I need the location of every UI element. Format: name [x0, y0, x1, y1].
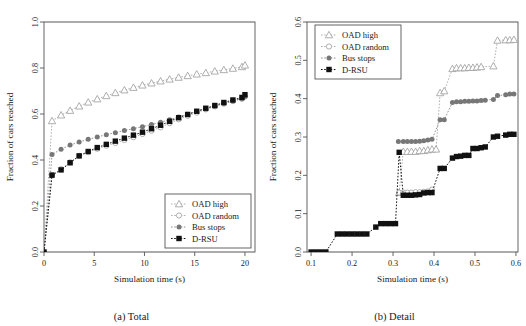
svg-text:1.0: 1.0 [31, 17, 40, 27]
svg-text:0.1: 0.1 [306, 259, 316, 268]
plot-detail: 0.10.20.30.40.50.60.00.10.20.30.40.50.6S… [263, 0, 526, 300]
svg-text:0.6: 0.6 [294, 17, 303, 27]
svg-text:0: 0 [42, 259, 46, 268]
svg-text:Fraction of cars reached: Fraction of cars reached [268, 92, 278, 181]
svg-text:0.2: 0.2 [31, 201, 40, 211]
svg-text:0.2: 0.2 [294, 170, 303, 180]
svg-text:0.8: 0.8 [31, 63, 40, 73]
panel-detail: 0.10.20.30.40.50.60.00.10.20.30.40.50.6S… [263, 0, 526, 326]
svg-text:0.4: 0.4 [429, 259, 439, 268]
svg-text:0.4: 0.4 [294, 94, 303, 104]
caption-detail: (b) Detail [263, 311, 526, 322]
svg-text:D-RSU: D-RSU [192, 234, 219, 244]
svg-text:D-RSU: D-RSU [342, 65, 369, 75]
svg-text:5: 5 [92, 259, 96, 268]
svg-text:Bus stops: Bus stops [342, 53, 376, 63]
svg-text:0.6: 0.6 [511, 259, 521, 268]
svg-text:0.6: 0.6 [31, 109, 40, 119]
svg-text:0.2: 0.2 [347, 259, 357, 268]
svg-text:0.0: 0.0 [294, 247, 303, 257]
svg-text:OAD high: OAD high [192, 199, 229, 209]
svg-text:OAD random: OAD random [192, 211, 239, 221]
svg-text:OAD random: OAD random [342, 42, 389, 52]
panel-total: 051015200.00.20.40.60.81.0Simulation tim… [0, 0, 263, 326]
svg-text:Fraction of cars reached: Fraction of cars reached [5, 92, 15, 181]
svg-text:0.4: 0.4 [31, 155, 40, 165]
svg-text:Bus stops: Bus stops [192, 222, 226, 232]
caption-total: (a) Total [0, 311, 263, 322]
svg-text:Simulation time (s): Simulation time (s) [114, 274, 185, 284]
svg-text:OAD high: OAD high [342, 30, 379, 40]
svg-text:0.1: 0.1 [294, 209, 303, 219]
svg-text:0.5: 0.5 [470, 259, 480, 268]
svg-text:0.3: 0.3 [294, 132, 303, 142]
svg-text:0.5: 0.5 [294, 55, 303, 65]
svg-text:Simulation time (s): Simulation time (s) [377, 274, 448, 284]
plot-total: 051015200.00.20.40.60.81.0Simulation tim… [0, 0, 263, 300]
svg-text:10: 10 [140, 259, 148, 268]
svg-text:15: 15 [191, 259, 199, 268]
svg-text:0.0: 0.0 [31, 247, 40, 257]
figure-two-panel-chart: 051015200.00.20.40.60.81.0Simulation tim… [0, 0, 526, 326]
svg-text:20: 20 [241, 259, 249, 268]
svg-text:0.3: 0.3 [388, 259, 398, 268]
